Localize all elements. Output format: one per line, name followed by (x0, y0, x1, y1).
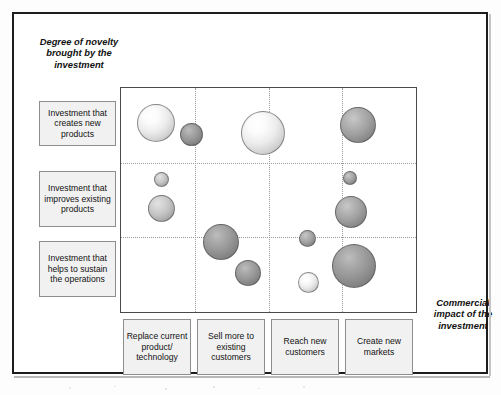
bubble-b4 (340, 107, 376, 143)
row-category-label: Investment that improves existing produc… (42, 183, 113, 215)
bubble-sphere (235, 260, 261, 286)
frame-shadow-right (489, 14, 491, 376)
bubble-sphere (241, 111, 285, 155)
bubble-sphere (343, 171, 357, 185)
gridline-horizontal (121, 237, 416, 238)
column-category-sell-more-existing-customers: Sell more to existing customers (197, 319, 265, 375)
gridline-horizontal (121, 163, 416, 164)
bubble-b3 (241, 111, 285, 155)
plot-area (120, 87, 417, 313)
bubble-sphere (298, 272, 319, 293)
column-category-create-new-markets: Create new markets (345, 319, 413, 375)
row-category-sustain-operations: Investment that helps to sustain the ope… (39, 241, 116, 297)
column-category-label: Replace current product/ technology (126, 331, 188, 363)
column-category-label: Create new markets (348, 336, 410, 357)
column-category-label: Reach new customers (274, 336, 336, 357)
bubble-sphere (154, 172, 169, 187)
bubble-b11 (299, 230, 316, 247)
column-category-reach-new-customers: Reach new customers (271, 319, 339, 375)
bubble-sphere (340, 107, 376, 143)
y-axis-title: Degree of novelty brought by the investm… (36, 36, 122, 70)
bubble-sphere (203, 224, 239, 260)
scan-artifact (40, 384, 340, 392)
row-category-label: Investment that helps to sustain the ope… (42, 253, 113, 285)
bubble-sphere (335, 196, 367, 228)
bubble-sphere (299, 230, 316, 247)
bubble-b13 (332, 244, 376, 288)
figure-outer-frame: Degree of novelty brought by the investm… (12, 12, 488, 374)
bubble-sphere (332, 244, 376, 288)
bubble-matrix-figure: Degree of novelty brought by the investm… (0, 0, 501, 395)
bubble-b12 (298, 272, 319, 293)
bubble-b6 (148, 195, 175, 222)
bubble-sphere (180, 123, 203, 146)
column-category-replace-current-product: Replace current product/ technology (123, 319, 191, 375)
bubble-b2 (180, 123, 203, 146)
bubble-sphere (148, 195, 175, 222)
row-category-improves-existing-products: Investment that improves existing produc… (39, 171, 116, 227)
bubble-b5 (154, 172, 169, 187)
gridline-vertical (195, 88, 196, 312)
bubble-b9 (203, 224, 239, 260)
bubble-sphere (137, 104, 175, 142)
bubble-b8 (335, 196, 367, 228)
bubble-b1 (137, 104, 175, 142)
frame-shadow-bottom (14, 376, 490, 378)
row-category-creates-new-products: Investment that creates new products (39, 101, 116, 146)
column-category-label: Sell more to existing customers (200, 331, 262, 363)
row-category-label: Investment that creates new products (42, 108, 113, 140)
bubble-b7 (343, 171, 357, 185)
bubble-b10 (235, 260, 261, 286)
